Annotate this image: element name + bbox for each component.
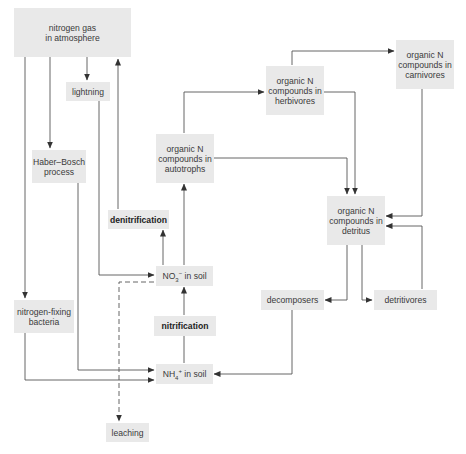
node-nitrogen-fixing-label: nitrogen-fixing bacteria <box>17 307 71 327</box>
edge-autotrophs-detritus <box>214 158 347 194</box>
node-no3-soil-label: NO3− in soil <box>162 268 206 285</box>
edge-herbivores-carnivores <box>292 51 394 65</box>
edge-no3-leaching <box>119 282 154 421</box>
node-autotrophs: organic N compounds in autotrophs <box>156 134 214 183</box>
node-atmosphere-label: nitrogen gas in atmosphere <box>45 23 99 43</box>
node-leaching: leaching <box>106 423 149 442</box>
node-detritivores-label: detritivores <box>384 295 426 305</box>
no3-tail: in soil <box>182 271 206 281</box>
no3-formula: NO <box>162 271 175 281</box>
node-decomposers-label: decomposers <box>267 295 319 305</box>
node-haber-bosch: Haber–Bosch process <box>32 150 86 183</box>
nh4-tail: in soil <box>182 369 206 379</box>
node-nh4-soil-label: NH4+ in soil <box>163 366 207 383</box>
edge-decomposers-nh4 <box>214 310 292 374</box>
edge-autotrophs-herbivores <box>184 92 264 133</box>
node-leaching-label: leaching <box>111 428 143 438</box>
node-detritus-label: organic N compounds in detritus <box>329 206 383 236</box>
edge-detritus-detritivores <box>362 245 372 300</box>
node-carnivores: organic N compounds in carnivores <box>396 40 454 89</box>
node-herbivores: organic N compounds in herbivores <box>266 66 324 115</box>
node-detritivores: detritivores <box>374 290 437 310</box>
node-no3-soil: NO3− in soil <box>156 266 213 286</box>
node-atmosphere: nitrogen gas in atmosphere <box>14 8 131 57</box>
node-nh4-soil: NH4+ in soil <box>156 364 213 384</box>
node-herbivores-label: organic N compounds in herbivores <box>268 76 322 106</box>
edge-lightning-no3 <box>99 101 154 275</box>
node-detritus: organic N compounds in detritus <box>327 196 385 245</box>
node-denitrification: denitrification <box>108 210 169 229</box>
edge-herbivores-detritus <box>324 92 355 194</box>
nh4-formula: NH <box>163 369 175 379</box>
node-autotrophs-label: organic N compounds in autotrophs <box>158 144 212 174</box>
node-lightning: lightning <box>66 82 110 101</box>
node-nitrogen-fixing: nitrogen-fixing bacteria <box>14 300 74 333</box>
node-denitrification-label: denitrification <box>110 215 167 225</box>
node-decomposers: decomposers <box>261 290 324 310</box>
edge-nfix-nh4 <box>25 333 154 380</box>
nh4-subscript: 4 <box>175 374 178 380</box>
edge-carnivores-detritus <box>386 89 422 216</box>
node-nitrification: nitrification <box>154 316 216 336</box>
node-nitrification-label: nitrification <box>162 321 209 331</box>
edge-detritus-decomposers <box>325 245 347 300</box>
no3-subscript: 3 <box>175 276 178 282</box>
node-haber-bosch-label: Haber–Bosch process <box>33 157 85 177</box>
node-carnivores-label: organic N compounds in carnivores <box>398 50 452 80</box>
node-lightning-label: lightning <box>72 87 104 97</box>
edge-detritivores-detritus <box>386 226 422 289</box>
